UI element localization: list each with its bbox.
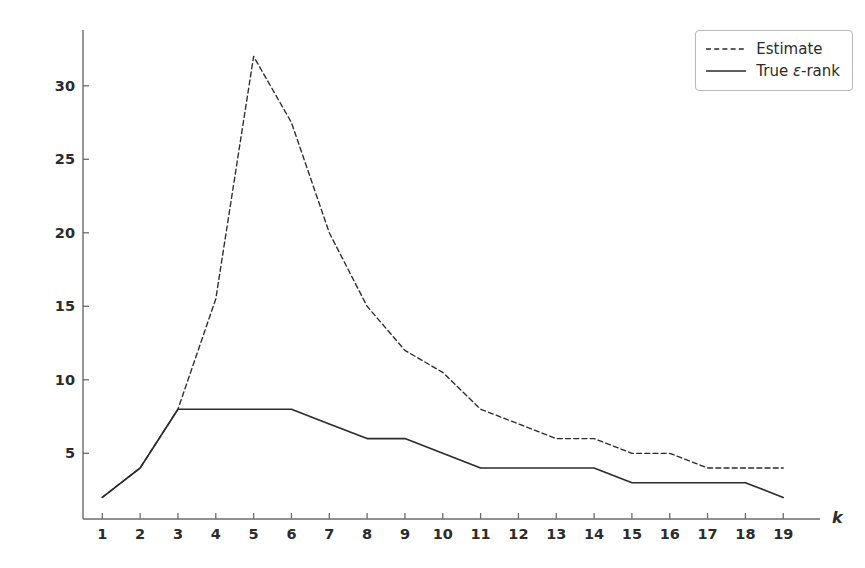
y-tick-label: 15 xyxy=(20,298,75,314)
x-axis-label: k xyxy=(832,508,843,527)
x-tick-label: 15 xyxy=(622,526,642,542)
x-tick-label: 16 xyxy=(660,526,680,542)
legend-label-estimate: Estimate xyxy=(756,40,822,58)
legend: Estimate True ε-rank xyxy=(695,30,853,91)
x-tick-label: 3 xyxy=(173,526,183,542)
x-tick-label: 17 xyxy=(697,526,717,542)
x-tick-label: 8 xyxy=(362,526,372,542)
chart-figure: 51015202530 1234567891011121314151617181… xyxy=(0,0,865,568)
legend-label-true-eps-rank: True ε-rank xyxy=(756,62,840,80)
x-tick-label: 7 xyxy=(324,526,334,542)
y-tick-label: 5 xyxy=(20,445,75,461)
legend-solid-line-sample xyxy=(706,65,746,77)
x-tick-marks xyxy=(102,513,783,519)
x-tick-label: 19 xyxy=(773,526,793,542)
x-tick-label: 10 xyxy=(433,526,453,542)
legend-dashed-line-sample xyxy=(706,43,746,55)
x-tick-label: 13 xyxy=(546,526,566,542)
x-tick-label: 1 xyxy=(97,526,107,542)
series-line-estimate xyxy=(102,56,783,497)
x-tick-label: 2 xyxy=(135,526,145,542)
x-tick-label: 18 xyxy=(735,526,755,542)
x-tick-label: 6 xyxy=(286,526,296,542)
x-tick-label: 5 xyxy=(249,526,259,542)
x-tick-label: 9 xyxy=(400,526,410,542)
y-tick-marks xyxy=(83,86,89,454)
x-tick-label: 11 xyxy=(471,526,491,542)
series-line-true-rank xyxy=(102,409,783,497)
legend-label-prefix: True xyxy=(756,62,793,80)
y-tick-label: 25 xyxy=(20,151,75,167)
data-series-group xyxy=(102,56,783,497)
legend-entry-estimate: Estimate xyxy=(706,38,840,60)
y-tick-label: 10 xyxy=(20,372,75,388)
y-tick-label: 30 xyxy=(20,78,75,94)
legend-label-suffix: -rank xyxy=(801,62,840,80)
y-tick-label: 20 xyxy=(20,225,75,241)
x-tick-label: 4 xyxy=(211,526,221,542)
x-tick-label: 14 xyxy=(584,526,604,542)
epsilon-symbol: ε xyxy=(793,62,801,80)
legend-entry-true-eps-rank: True ε-rank xyxy=(706,60,840,82)
x-tick-label: 12 xyxy=(508,526,528,542)
